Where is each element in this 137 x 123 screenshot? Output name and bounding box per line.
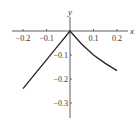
x-tick-label: 0.2 [112,34,122,43]
y-tick-label: −0.1 [53,51,68,60]
x-tick-label: 0.1 [89,34,99,43]
x-tick-label: −0.2 [16,34,31,43]
x-axis-label: x [129,26,134,36]
y-tick-label: −0.2 [53,75,68,84]
y-tick-label: −0.3 [53,99,68,108]
ticks: −0.2−0.10.10.2−0.1−0.2−0.3 [16,29,122,108]
y-axis-label: y [67,7,72,17]
chart: −0.2−0.10.10.2−0.1−0.2−0.3 x y [0,0,137,123]
x-tick-label: −0.1 [39,34,54,43]
